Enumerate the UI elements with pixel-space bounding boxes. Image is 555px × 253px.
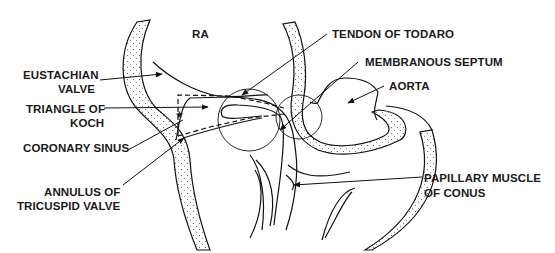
label-triangle-of-koch-2: KOCH	[70, 117, 104, 129]
label-papillary-muscle: PAPILLARY MUSCLE	[424, 172, 541, 184]
label-coronary-sinus: CORONARY SINUS	[23, 142, 129, 154]
ventricular-septum-lines	[250, 155, 273, 238]
heart-anatomy-diagram: ★ RA TENDON OF TODARO MEMBRANOUS SEPTUM …	[0, 0, 555, 253]
label-triangle-of-koch: TRIANGLE OF	[26, 103, 105, 115]
aorta-outline	[310, 78, 378, 120]
label-annulus-2: TRICUSPID VALVE	[17, 200, 121, 212]
label-membranous-septum: MEMBRANOUS SEPTUM	[365, 56, 503, 68]
left-atrial-wall	[123, 20, 210, 250]
label-tendon-of-todaro: TENDON OF TODARO	[332, 28, 454, 40]
label-eustachian-valve-2: VALVE	[58, 83, 95, 95]
label-ra: RA	[192, 28, 209, 40]
koch-star-icon: ★	[175, 109, 184, 120]
label-annulus: ANNULUS OF	[44, 186, 120, 198]
label-aorta: AORTA	[389, 80, 430, 92]
label-eustachian-valve: EUSTACHIAN	[23, 69, 99, 81]
label-papillary-muscle-2: OF CONUS	[424, 187, 486, 199]
septal-wall	[283, 22, 406, 154]
eustachian-valve-curve	[153, 62, 268, 97]
